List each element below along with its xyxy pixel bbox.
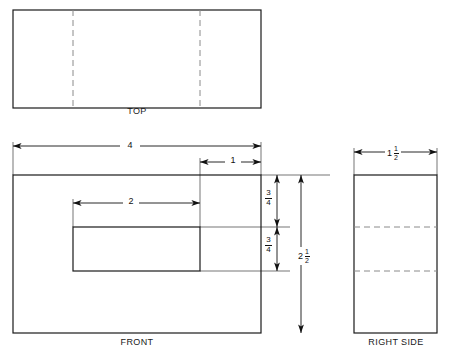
fraction-numerator: 1 [394, 145, 398, 152]
view-label-right-side: RIGHT SIDE [355, 337, 437, 347]
fraction-numerator: 3 [266, 236, 270, 244]
view-label-front: FRONT [97, 337, 177, 347]
dimension-overall-height: 2 1 2 [296, 247, 312, 265]
top-view-outline [13, 10, 261, 108]
drawing-page: TOP FRONT RIGHT SIDE 4 1 2 3 4 3 4 2 1 2… [0, 0, 456, 354]
dimension-slot-width: 2 [123, 196, 139, 207]
mixed-whole: 2 [298, 251, 303, 261]
fraction-denominator: 4 [266, 246, 270, 254]
fraction-numerator: 1 [305, 248, 309, 255]
dimension-slot-height: 3 4 [264, 235, 273, 255]
view-right-side [354, 175, 437, 333]
dimension-overall-depth: 1 1 2 [385, 144, 401, 162]
fraction-denominator: 2 [394, 154, 398, 161]
dimension-top-to-slot: 3 4 [264, 188, 273, 208]
dimension-right-offset: 1 [225, 155, 241, 166]
front-view-slot [73, 227, 200, 271]
fraction-denominator: 4 [266, 199, 270, 207]
mixed-whole: 1 [387, 148, 392, 158]
orthographic-drawing-canvas [0, 0, 456, 354]
mixed-fraction: 1 2 [394, 145, 399, 161]
dimension-overall-width: 4 [120, 140, 140, 151]
view-top [13, 10, 261, 108]
view-label-top: TOP [97, 106, 177, 116]
right-side-view-outline [354, 175, 437, 333]
fraction-denominator: 2 [305, 257, 309, 264]
fraction-numerator: 3 [266, 189, 270, 197]
mixed-fraction: 1 2 [305, 248, 310, 264]
